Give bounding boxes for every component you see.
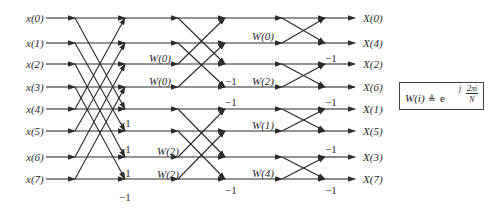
stage2-twiddle-0: W(0) xyxy=(149,52,171,64)
twiddle-formula-box: W(i) ≜ e j 2πi N xyxy=(399,82,484,110)
output-label-5: X(5) xyxy=(363,125,383,137)
stage1-minus-one-0: −1 xyxy=(119,117,131,129)
stage2-minus-one-3: −1 xyxy=(225,184,237,196)
output-label-1: X(4) xyxy=(363,37,383,49)
input-label-6: x(6) xyxy=(26,151,44,163)
output-label-2: X(2) xyxy=(363,58,383,70)
input-label-2: x(2) xyxy=(26,58,44,70)
formula-base: e xyxy=(440,92,445,104)
stage3-minus-one-3: −1 xyxy=(325,184,337,196)
output-label-0: X(0) xyxy=(363,12,383,24)
output-label-3: X(6) xyxy=(363,81,383,93)
stage3-twiddle-1: W(2) xyxy=(252,75,274,87)
stage2-twiddle-1: W(0) xyxy=(149,75,171,87)
input-label-3: x(3) xyxy=(26,81,44,93)
input-label-4: x(4) xyxy=(26,103,44,115)
output-label-6: X(3) xyxy=(363,151,383,163)
stage3-twiddle-0: W(0) xyxy=(252,30,274,42)
formula-def-symbol: ≜ xyxy=(428,94,436,104)
output-label-4: X(1) xyxy=(363,103,383,115)
stage2-twiddle-3: W(2) xyxy=(157,168,179,180)
output-label-7: X(7) xyxy=(363,173,383,185)
stage2-minus-one-0: −1 xyxy=(225,75,237,87)
stage1-minus-one-1: −1 xyxy=(119,143,131,155)
formula-main: W(i) ≜ e xyxy=(405,92,445,104)
stage2-twiddle-2: W(2) xyxy=(157,145,179,157)
input-label-1: x(1) xyxy=(26,37,44,49)
input-label-5: x(5) xyxy=(26,125,44,137)
stage3-twiddle-2: W(1) xyxy=(252,119,274,131)
stage3-twiddle-3: W(4) xyxy=(252,167,274,179)
stage2-minus-one-1: −1 xyxy=(225,96,237,108)
stage3-minus-one-1: −1 xyxy=(325,96,337,108)
input-label-0: x(0) xyxy=(26,12,44,24)
stage1-minus-one-3: −1 xyxy=(119,191,131,203)
stage1-minus-one-2: −1 xyxy=(119,167,131,179)
formula-lhs: W(i) xyxy=(405,92,425,104)
formula-exp-numerator: 2πi xyxy=(466,84,478,94)
input-label-7: x(7) xyxy=(26,173,44,185)
formula-exp-prefix: j xyxy=(459,84,461,93)
stage3-minus-one-2: −1 xyxy=(325,143,337,155)
formula-exp-denominator: N xyxy=(469,95,474,104)
stage3-minus-one-0: −1 xyxy=(325,52,337,64)
